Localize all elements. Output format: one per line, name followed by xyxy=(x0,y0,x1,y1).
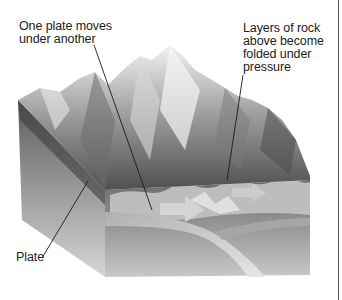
block-front-face xyxy=(105,177,310,277)
diagram-canvas: One plate moves under another Layers of … xyxy=(0,0,342,300)
label-subduction: One plate moves under another xyxy=(19,20,112,46)
label-folded-layers: Layers of rock above become folded under… xyxy=(243,22,324,74)
page-edge-rule xyxy=(338,0,339,300)
label-plate: Plate xyxy=(16,251,44,264)
